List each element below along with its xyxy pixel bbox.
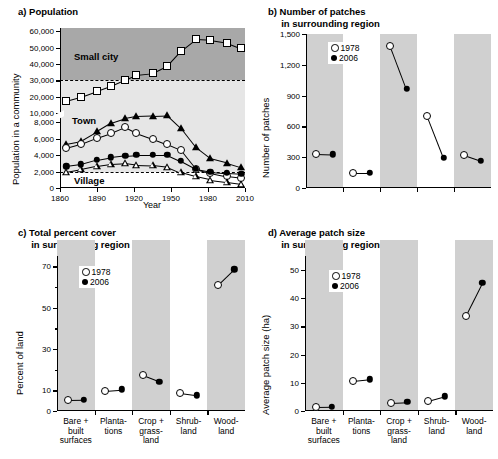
y-tick-label: 30 (42, 345, 51, 354)
x-tick (455, 411, 456, 415)
legend-entry: 1978 (331, 43, 359, 53)
y-tick (53, 411, 57, 412)
category-label: Shrub- land (176, 417, 202, 436)
x-tick (417, 188, 418, 192)
y-tick (301, 383, 305, 384)
data-point-small-city (206, 36, 214, 44)
data-point-town-small (77, 140, 85, 148)
data-point-village-small (149, 161, 157, 168)
filled-circle-icon (82, 279, 88, 285)
x-tick-label: 1890 (88, 194, 106, 203)
panel-b-legend: 19782006 (328, 42, 362, 64)
data-point-town-large (163, 111, 171, 118)
data-point-village-small (192, 173, 200, 180)
y-tick (53, 308, 57, 309)
data-point-2006 (366, 169, 372, 175)
y-tick (56, 172, 60, 173)
data-point-small-city (77, 93, 85, 101)
data-point-town-large (177, 124, 185, 131)
data-point-village-small (77, 165, 85, 172)
data-point-small-city (62, 97, 70, 105)
category-band (305, 240, 343, 411)
y-tick-label: 0 (295, 407, 299, 416)
zone-label-small-city: Small city (74, 51, 118, 62)
open-circle-icon (331, 44, 339, 52)
x-tick (380, 411, 381, 415)
y-tick (301, 270, 305, 271)
data-point-small-city (223, 39, 231, 47)
data-point-1978 (312, 150, 320, 158)
category-band (207, 240, 245, 411)
panel-c-legend: 19782006 (79, 266, 113, 288)
data-point-1978 (349, 169, 357, 177)
y-tick-label: 30 (290, 322, 299, 331)
y-tick (301, 298, 305, 299)
y-tick-label: 40,000 (30, 60, 54, 69)
y-tick-label: 4,000 (34, 151, 54, 160)
category-band (455, 240, 493, 411)
legend-label: 2006 (340, 281, 359, 291)
category-band (454, 34, 491, 188)
legend-entry: 2006 (331, 53, 359, 63)
panel-d-ylabel: Average patch size (ha) (260, 315, 271, 415)
y-tick-label: 20,000 (30, 92, 54, 101)
y-tick-label: 70 (42, 262, 51, 271)
legend-label: 2006 (339, 53, 358, 63)
data-point-small-city (121, 76, 129, 84)
data-point-2006 (366, 376, 372, 382)
x-tick (380, 188, 381, 192)
panel-b-plot: 03006009001,2001,50019782006 (306, 34, 491, 188)
y-tick (56, 139, 60, 140)
data-point-1978 (424, 397, 432, 405)
data-point-village-small (206, 176, 214, 183)
panel-c-plot: 010305070Bare + built surfacesPlanta- ti… (57, 256, 245, 411)
data-point-2006 (440, 155, 446, 161)
data-point-town-large (206, 155, 214, 162)
data-point-small-city (132, 71, 140, 79)
category-band (380, 34, 417, 188)
x-tick-label: 1950 (162, 194, 180, 203)
category-band (132, 240, 170, 411)
legend-entry: 1978 (332, 271, 360, 281)
category-label: Planta- tions (348, 417, 375, 436)
panel-b-ylabel: Number of patches (260, 98, 271, 178)
panel-a-xlabel: Year (143, 200, 161, 210)
x-tick (171, 188, 172, 192)
data-point-town-large (223, 159, 231, 166)
y-tick (56, 122, 60, 123)
y-tick (56, 64, 60, 65)
y-tick-label: 0 (47, 407, 51, 416)
data-point-town-small (62, 144, 70, 152)
y-tick-label: 10,000 (30, 109, 54, 118)
data-point-2006 (118, 386, 124, 392)
y-tick (302, 157, 306, 158)
x-tick (207, 411, 208, 415)
panel-a-ylabel: Population in a community (10, 74, 21, 185)
x-tick (208, 188, 209, 192)
x-tick-label: 1980 (199, 194, 217, 203)
category-band (380, 240, 418, 411)
y-tick (53, 349, 57, 350)
data-point-town-small (132, 129, 140, 137)
data-point-village-small (177, 169, 185, 176)
data-point-town-large (192, 143, 200, 150)
y-axis-line (306, 34, 307, 188)
panel-d-legend: 19782006 (329, 270, 363, 292)
data-point-village-small (107, 160, 115, 167)
y-tick-label: 10 (290, 378, 299, 387)
data-point-1978 (312, 403, 320, 411)
data-point-1978 (423, 112, 431, 120)
panel-d-average-patch-size: d) Average patch size in surrounding reg… (248, 215, 498, 459)
legend-label: 2006 (90, 277, 109, 287)
data-point-1978 (460, 151, 468, 159)
open-circle-icon (82, 268, 90, 276)
x-tick (97, 188, 98, 192)
y-tick (302, 188, 306, 189)
y-tick-label: 10 (42, 386, 51, 395)
category-label: Crop + grass- land (138, 417, 164, 446)
data-point-village-small (223, 178, 231, 185)
data-point-town-large (149, 112, 157, 119)
y-axis-line (60, 28, 61, 188)
y-tick-label: 1,200 (280, 60, 300, 69)
data-point-small-city (149, 69, 157, 77)
